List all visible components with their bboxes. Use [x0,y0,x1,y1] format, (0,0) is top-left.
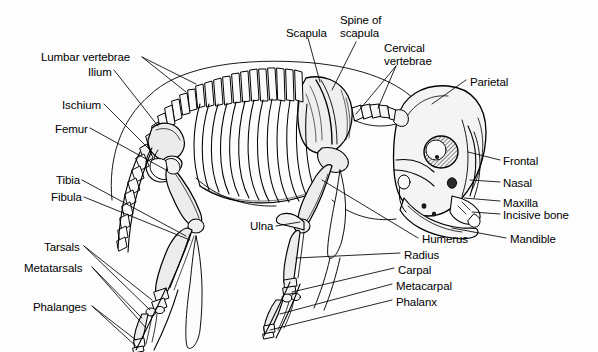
label-phalanx: Phalanx [396,296,437,309]
label-maxilla: Maxilla [503,197,538,210]
label-phalanges: Phalanges [33,301,86,314]
label-lumbar-vertebrae: Lumbar vertebrae [41,51,130,64]
label-carpal: Carpal [398,264,431,277]
label-metacarpal: Metacarpal [396,280,452,293]
label-cervical-vertebrae-line2: vertebrae [384,55,432,68]
label-mandible: Mandible [510,233,556,246]
label-metatarsals: Metatarsals [24,262,82,275]
label-humerus: Humerus [422,233,468,246]
skeleton-diagram: Lumbar vertebrae Ilium Ischium Femur Tib… [0,0,598,352]
label-ulna: Ulna [250,220,273,233]
label-parietal: Parietal [470,76,508,89]
label-radius: Radius [404,249,439,262]
label-spine-of-scapula-line2: scapula [340,27,379,40]
label-tarsals: Tarsals [44,241,80,254]
label-ischium: Ischium [62,99,101,112]
label-incisive-bone: Incisive bone [503,209,569,222]
label-scapula: Scapula [286,27,327,40]
label-fibula: Fibula [51,191,82,204]
label-tibia: Tibia [56,174,80,187]
label-cervical-vertebrae-line1: Cervical [384,42,425,55]
label-nasal: Nasal [503,177,532,190]
label-ilium: Ilium [88,66,112,79]
label-spine-of-scapula-line1: Spine of [340,14,381,27]
label-frontal: Frontal [503,155,538,168]
label-femur: Femur [55,123,88,136]
